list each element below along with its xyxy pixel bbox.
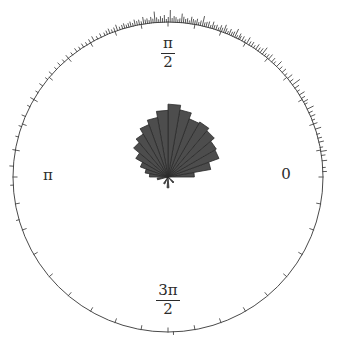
rug-spike (54, 67, 57, 69)
rug-spike (220, 25, 222, 31)
fraction-numerator: π (161, 36, 175, 54)
rug-spike (266, 54, 269, 57)
rug-spike (191, 17, 192, 24)
rug-spike (143, 17, 144, 24)
minor-tick (283, 274, 287, 277)
axis-label-pi: π (34, 168, 62, 183)
fraction-denominator: 2 (161, 54, 175, 71)
polar-rose-chart: π 2 3π 2 π 0 (0, 0, 339, 353)
rug-spike (315, 127, 321, 129)
minor-tick (283, 77, 287, 80)
rug-spike (12, 150, 15, 151)
minor-tick (90, 307, 93, 311)
rug-spike (185, 19, 186, 23)
axis-label-pi-over-2: π 2 (144, 36, 192, 71)
rug-spike (229, 29, 232, 35)
rug-spike (141, 21, 142, 24)
rug-spike (81, 44, 83, 48)
rose-petal (168, 177, 174, 183)
rug-spike (260, 48, 263, 52)
fraction-denominator: 2 (156, 301, 179, 318)
rug-spike (256, 44, 260, 49)
rug-spike (271, 58, 275, 62)
fraction-numerator: 3π (156, 283, 179, 301)
rug-spike (30, 98, 34, 100)
rug-spike (45, 78, 48, 80)
rug-spike (320, 150, 326, 151)
fraction-3pi-over-2: 3π 2 (156, 283, 179, 318)
fraction-pi-over-2: π 2 (161, 36, 175, 71)
rug-spike (39, 84, 43, 87)
axis-label-3pi-over-2: 3π 2 (144, 283, 192, 318)
rug-spike (268, 55, 272, 60)
rug-spike (258, 48, 261, 52)
rug-spike (285, 73, 288, 75)
rug-spike (235, 29, 239, 38)
rug-spike (282, 69, 286, 73)
rug-spike (319, 141, 324, 142)
rug-spike (181, 14, 182, 23)
rug-spike (276, 61, 281, 66)
rug-spike (196, 19, 197, 25)
rug-spike (134, 20, 135, 26)
rug-spike (242, 36, 245, 41)
rug-spike (208, 21, 210, 27)
minor-tick (265, 292, 268, 296)
minor-tick (243, 42, 246, 46)
rug-spike (238, 34, 241, 40)
minor-tick (49, 77, 53, 80)
rug-spike (216, 25, 218, 30)
minor-tick (243, 307, 246, 311)
rug-spike (212, 22, 214, 29)
rug-spike (154, 12, 155, 23)
rug-spike (58, 63, 61, 66)
rug-spike (108, 29, 110, 34)
rug-spike (225, 28, 227, 33)
rose-petal-group (134, 104, 219, 188)
rug-spike (75, 48, 78, 52)
rug-spike (251, 42, 254, 47)
rug-spike (49, 72, 52, 75)
rug-spike (246, 37, 250, 43)
minor-tick (49, 274, 53, 277)
axis-label-zero: 0 (272, 167, 300, 182)
rug-spike (233, 32, 235, 37)
minor-tick (68, 292, 71, 296)
rug-spike (301, 96, 305, 98)
rug-spike (273, 61, 275, 64)
rug-spike (287, 75, 292, 79)
rug-spike (66, 55, 69, 58)
rug-spike (89, 39, 91, 43)
rug-spike (295, 85, 300, 88)
rug-spike (249, 41, 251, 45)
rug-spike (116, 25, 118, 31)
rug-spike (303, 99, 308, 102)
minor-tick (298, 252, 302, 255)
rug-spike (62, 60, 64, 63)
rug-spike (310, 114, 315, 116)
minor-tick (298, 99, 302, 102)
rug-spike (92, 36, 95, 41)
rug-spike (290, 79, 294, 82)
rug-spike (307, 106, 314, 109)
rug-spike (183, 17, 184, 23)
rug-spike (292, 79, 300, 85)
minor-tick (265, 58, 268, 62)
rug-spike (151, 17, 152, 23)
minor-tick (33, 252, 37, 255)
rug-spike (322, 160, 327, 161)
rug-spike (279, 67, 282, 70)
rug-spike (299, 92, 305, 95)
